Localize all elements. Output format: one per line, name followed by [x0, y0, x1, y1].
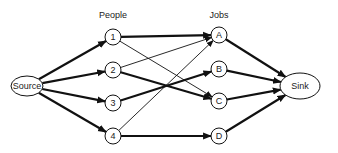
person-node-label: 2	[110, 65, 115, 75]
person-node-1: 1	[105, 29, 121, 45]
person-node-4: 4	[105, 128, 121, 144]
job-node-a: A	[211, 27, 227, 43]
job-node-c: C	[211, 93, 227, 109]
job-node-b: B	[211, 61, 227, 77]
job-node-label: D	[216, 131, 223, 141]
edge-1-to-c	[120, 41, 212, 97]
edge-4-to-a	[119, 41, 213, 131]
edge-2-to-a	[121, 38, 212, 68]
edge-c-to-sink	[227, 90, 281, 100]
person-node-3: 3	[105, 95, 121, 111]
person-node-2: 2	[105, 62, 121, 78]
sink-node: Sink	[280, 73, 320, 99]
edge-d-to-sink	[226, 95, 286, 132]
person-node-label: 1	[110, 32, 115, 42]
person-node-label: 4	[110, 131, 115, 141]
job-node-label: A	[216, 30, 222, 40]
flow-network-diagram: SourceSink1234ABCD People Jobs	[0, 0, 338, 153]
job-node-label: B	[216, 64, 222, 74]
job-node-label: C	[216, 96, 223, 106]
edge-source-to-2	[42, 71, 105, 83]
edge-b-to-sink	[227, 71, 281, 82]
jobs-column-label: Jobs	[209, 10, 229, 20]
job-node-d: D	[211, 128, 227, 144]
sink-node-label: Sink	[291, 81, 309, 91]
person-node-label: 3	[110, 98, 115, 108]
people-column-label: People	[99, 10, 127, 20]
source-node-label: Source	[13, 81, 42, 91]
edges-layer	[39, 35, 286, 136]
source-node: Source	[11, 76, 43, 96]
edge-1-to-a	[121, 35, 211, 37]
